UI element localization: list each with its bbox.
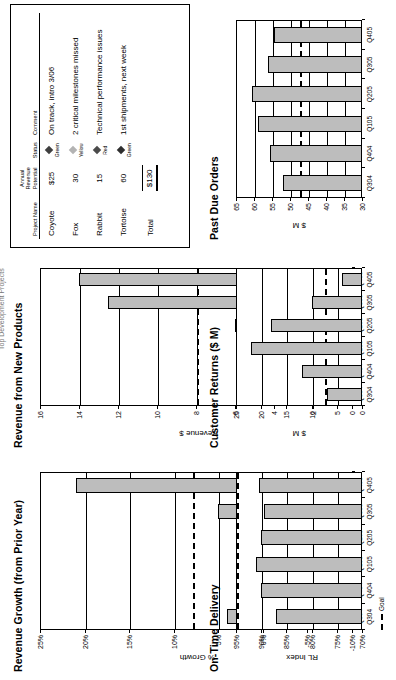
cell-annual-revenue: $25 xyxy=(39,162,64,194)
table-body: Coyote$25GreenOn track, intro 3/06Fox30Y… xyxy=(39,13,162,239)
x-tick-mark xyxy=(362,290,365,291)
y-tick-mark xyxy=(236,198,237,201)
y-tick-mark xyxy=(118,406,119,409)
x-tick-mark xyxy=(362,497,365,498)
x-tick-label: Q404 xyxy=(366,360,373,383)
x-tick-mark xyxy=(362,19,365,20)
col-status: Status xyxy=(19,138,39,163)
y-tick-mark xyxy=(337,630,338,633)
col-annual-revenue-potential: AnnualRevenuePotential xyxy=(19,162,39,194)
gridline xyxy=(338,269,339,405)
y-tick-mark xyxy=(337,406,338,409)
x-tick-mark xyxy=(362,313,365,314)
cell-annual-revenue: 30 xyxy=(64,162,88,194)
x-tick-label: Q305 xyxy=(366,50,373,80)
goal-line xyxy=(325,269,327,405)
chart-title-revenue-growth: Revenue Growth (from Prior Year) xyxy=(12,464,24,672)
gridline xyxy=(273,21,274,197)
plot-area xyxy=(236,472,362,630)
x-tick-label: Q105 xyxy=(366,551,373,577)
x-tick-label: Q404 xyxy=(366,577,373,603)
project-table: Project Name AnnualRevenuePotential Stat… xyxy=(19,13,162,239)
y-tick-mark xyxy=(286,406,287,409)
y-tick-mark xyxy=(40,406,41,409)
y-tick-label: 10 xyxy=(308,411,315,438)
gridline xyxy=(262,473,263,629)
plot-area xyxy=(236,268,362,406)
bar xyxy=(261,583,362,598)
x-tick-mark xyxy=(362,197,365,198)
plot-area xyxy=(236,20,362,198)
gridline xyxy=(262,269,263,405)
bar xyxy=(271,319,362,332)
total-value: $130 xyxy=(136,162,163,194)
gridline xyxy=(80,269,81,405)
chart-legend: Goal xyxy=(378,597,385,630)
gridline xyxy=(287,473,288,629)
y-tick-label: 90% xyxy=(258,635,265,662)
bar xyxy=(274,27,362,44)
y-tick-mark xyxy=(174,630,175,633)
table-header-row: Project Name AnnualRevenuePotential Stat… xyxy=(19,13,39,239)
status-diamond-icon xyxy=(44,146,52,154)
cell-status: Red xyxy=(88,138,112,163)
y-tick-mark xyxy=(254,198,255,201)
y-tick-label: 25% xyxy=(37,635,44,662)
y-axis-label: $ M xyxy=(293,429,306,438)
panel-customer-returns: Customer Returns ($ M) $ M2520151050Q304… xyxy=(208,260,390,448)
x-tick-label: Q205 xyxy=(366,79,373,109)
bar xyxy=(270,145,362,162)
x-tick-mark xyxy=(362,359,365,360)
table-row: Rabbit15RedTechnical performance issues xyxy=(88,13,112,239)
cell-comment: Technical performance issues xyxy=(88,13,112,138)
x-tick-mark xyxy=(362,629,365,630)
x-tick-mark xyxy=(362,471,365,472)
y-tick-mark xyxy=(312,630,313,633)
y-tick-label: 12 xyxy=(115,411,122,438)
y-tick-mark xyxy=(196,406,197,409)
bar xyxy=(342,273,362,286)
x-tick-label: Q105 xyxy=(366,337,373,360)
y-tick-mark xyxy=(85,630,86,633)
bar xyxy=(258,116,362,133)
chart-title-past-due-orders: Past Due Orders xyxy=(208,12,220,240)
y-tick-label: 50 xyxy=(287,203,294,230)
x-tick-label: Q304 xyxy=(366,604,373,630)
gridline xyxy=(327,21,328,197)
goal-legend-label: Goal xyxy=(378,597,385,611)
col-project-name: Project Name xyxy=(19,194,39,239)
goal-legend-swatch xyxy=(381,614,383,630)
y-tick-label: 75% xyxy=(333,635,340,662)
screenshot-root: Top Development Projects Revenue Growth … xyxy=(0,0,396,680)
table-total-row: Total$130 xyxy=(136,13,163,239)
y-tick-mark xyxy=(236,630,237,633)
y-tick-mark xyxy=(326,198,327,201)
x-tick-mark xyxy=(362,167,365,168)
panel-top-development-projects: Project Name AnnualRevenuePotential Stat… xyxy=(4,4,194,248)
cell-project-name: Coyote xyxy=(39,194,64,239)
bar xyxy=(302,365,362,378)
gridline xyxy=(313,269,314,405)
y-tick-label: 45 xyxy=(305,203,312,230)
table-row: Tortoise60Green1st shipments, next week xyxy=(112,13,136,239)
bar xyxy=(312,296,362,309)
cell-project-name: Tortoise xyxy=(112,194,136,239)
y-tick-label: 80% xyxy=(308,635,315,662)
bar xyxy=(327,388,362,401)
x-tick-mark xyxy=(362,382,365,383)
x-tick-label: Q205 xyxy=(366,525,373,551)
y-tick-label: 20 xyxy=(258,411,265,438)
chart-title-revenue-new-products: Revenue from New Products xyxy=(12,260,24,448)
x-tick-label: Q205 xyxy=(366,314,373,337)
status-diamond-icon xyxy=(68,146,76,154)
y-tick-mark xyxy=(362,198,363,201)
y-tick-label: 8 xyxy=(193,411,200,438)
goal-line xyxy=(197,269,199,405)
status-diamond-icon xyxy=(116,146,124,154)
x-tick-mark xyxy=(362,267,365,268)
status-label: Green xyxy=(54,141,60,160)
y-tick-label: 15% xyxy=(126,635,133,662)
y-tick-mark xyxy=(286,630,287,633)
status-diamond-icon xyxy=(92,146,100,154)
x-tick-mark xyxy=(362,550,365,551)
